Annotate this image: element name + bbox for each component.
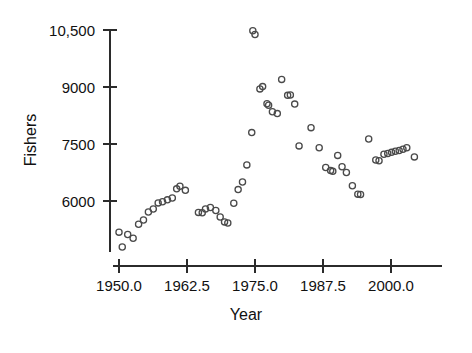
data-point <box>343 169 349 175</box>
y-tick-label: 7500 <box>62 136 95 153</box>
data-point <box>140 217 146 223</box>
data-point <box>411 154 417 160</box>
data-point <box>182 187 188 193</box>
y-tick-label: 6000 <box>62 193 95 210</box>
x-tick-label: 1987.5 <box>300 277 346 294</box>
data-point <box>349 183 355 189</box>
axis-labels-group: 60007500900010,5001950.01962.51975.01987… <box>22 22 414 324</box>
plot-area: 60007500900010,5001950.01962.51975.01987… <box>0 0 472 353</box>
data-point <box>266 102 272 108</box>
data-point <box>239 179 245 185</box>
x-axis-title: Year <box>230 306 263 323</box>
data-point <box>400 146 406 152</box>
data-point <box>119 244 125 250</box>
data-point <box>235 187 241 193</box>
data-point <box>279 76 285 82</box>
x-tick-label: 1975.0 <box>232 277 278 294</box>
data-point <box>308 125 314 131</box>
scatter-chart: 60007500900010,5001950.01962.51975.01987… <box>0 0 472 353</box>
data-point <box>339 164 345 170</box>
axes-group <box>103 30 442 273</box>
data-point <box>116 229 122 235</box>
data-point <box>366 136 372 142</box>
x-tick-label: 2000.0 <box>368 277 414 294</box>
y-tick-label: 9000 <box>62 79 95 96</box>
data-point <box>335 152 341 158</box>
data-point <box>292 101 298 107</box>
y-tick-label: 10,500 <box>49 22 95 39</box>
data-point <box>404 145 410 151</box>
data-point <box>130 235 136 241</box>
data-points-group <box>116 28 418 250</box>
y-axis-title: Fishers <box>22 114 39 166</box>
data-point <box>296 143 302 149</box>
x-tick-label: 1962.5 <box>164 277 210 294</box>
data-point <box>213 207 219 213</box>
data-point <box>316 145 322 151</box>
data-point <box>150 206 156 212</box>
data-point <box>244 162 250 168</box>
data-point <box>249 130 255 136</box>
data-point <box>231 200 237 206</box>
x-tick-label: 1950.0 <box>96 277 142 294</box>
